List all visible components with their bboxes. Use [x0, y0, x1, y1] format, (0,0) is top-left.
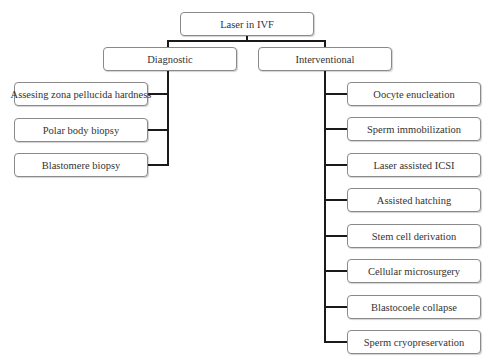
connector-interventional-child-3 [324, 164, 347, 166]
connector-interventional-child-1 [324, 93, 347, 95]
branch-node-diagnostic: Diagnostic [103, 47, 237, 71]
root-node: Laser in IVF [180, 12, 314, 36]
leaf-node-sperm-cryopreservation: Sperm cryopreservation [347, 330, 481, 354]
leaf-node-stem-cell-derivation: Stem cell derivation [347, 224, 481, 248]
leaf-node-laser-assisted-icsi: Laser assisted ICSI [347, 153, 481, 177]
connector-root-horizontal [167, 40, 326, 42]
connector-interventional-child-4 [324, 199, 347, 201]
leaf-node-oocyte-enucleation: Oocyte enucleation [347, 82, 481, 106]
connector-interventional-child-8 [324, 341, 347, 343]
connector-interventional-child-7 [324, 306, 347, 308]
branch-node-interventional: Interventional [258, 47, 392, 71]
leaf-node-blastocoele-collapse: Blastocoele collapse [347, 295, 481, 319]
leaf-node-blastomere-biopsy: Blastomere biopsy [14, 153, 148, 177]
connector-interventional-trunk [324, 70, 326, 343]
connector-diagnostic-trunk [167, 70, 169, 165]
leaf-node-sperm-immobilization: Sperm immobilization [347, 117, 481, 141]
connector-interventional-child-2 [324, 128, 347, 130]
leaf-node-zona-pellucida-hardness: Assesing zona pellucida hardness [14, 82, 148, 106]
leaf-node-assisted-hatching: Assisted hatching [347, 188, 481, 212]
leaf-node-cellular-microsurgery: Cellular microsurgery [347, 259, 481, 283]
connector-interventional-child-6 [324, 270, 347, 272]
connector-interventional-child-5 [324, 235, 347, 237]
connector-diagnostic-child-2 [147, 129, 169, 131]
connector-diagnostic-child-3 [147, 164, 169, 166]
leaf-node-polar-body-biopsy: Polar body biopsy [14, 118, 148, 142]
